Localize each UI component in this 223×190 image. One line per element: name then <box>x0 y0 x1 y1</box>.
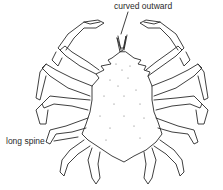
crab-diagram: curved outward long spine <box>0 0 223 190</box>
leader-line-spine <box>54 137 78 141</box>
label-curved-outward: curved outward <box>114 2 172 11</box>
label-long-spine: long spine <box>6 137 45 146</box>
crab-illustration <box>0 0 223 190</box>
leader-line-rostrum <box>121 12 128 34</box>
